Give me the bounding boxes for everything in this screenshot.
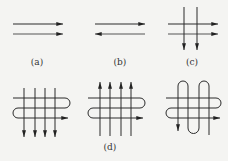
- panel-b: (b): [95, 24, 145, 67]
- panel-label-a: (a): [31, 57, 43, 67]
- panel-label-d: (d): [104, 142, 117, 152]
- panel-label-b: (b): [114, 57, 127, 67]
- serpentine-flow: [88, 98, 145, 118]
- panel-d-right: [166, 81, 221, 135]
- serpentine-flow: [13, 98, 70, 118]
- panel-d-middle: (d): [88, 82, 145, 152]
- panel-c: (c): [168, 7, 218, 67]
- flow-diagram: (a) (b) (c) (d): [0, 0, 228, 161]
- serpentine-flow: [166, 98, 221, 118]
- panel-a: (a): [13, 24, 63, 67]
- panel-d-left: [13, 88, 70, 137]
- panel-label-c: (c): [186, 57, 198, 67]
